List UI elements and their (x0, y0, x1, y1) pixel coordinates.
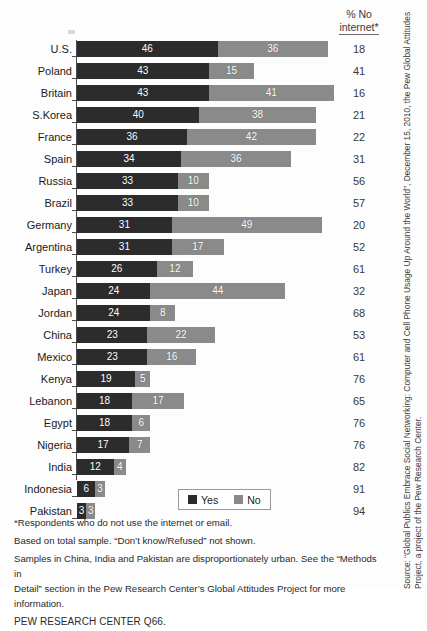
bar-segment-no: 3 (95, 481, 104, 497)
bar-value-label: 40 (133, 110, 144, 120)
bar-value-label: 7 (137, 440, 143, 450)
chart-row: Lebanon181765 (0, 390, 400, 412)
bar-segment-no: 22 (147, 327, 214, 343)
chart-row: Jordan24868 (0, 302, 400, 324)
bar-value-label: 22 (175, 330, 186, 340)
no-internet-value: 16 (330, 82, 388, 104)
bar-segment-no: 10 (178, 173, 209, 189)
no-internet-value: 21 (330, 104, 388, 126)
chart-row: U.S.463618 (0, 38, 400, 60)
bar-segment-yes: 33 (77, 173, 178, 189)
bar-segment-no: 42 (187, 129, 316, 145)
category-label: S.Korea (0, 104, 72, 126)
footnote-line-2: Based on total sample. “Don’t know/Refus… (14, 534, 382, 549)
chart-legend: Yes No (178, 489, 271, 510)
chart-row: Argentina311752 (0, 236, 400, 258)
category-label: Mexico (0, 346, 72, 368)
bar-segment-no: 4 (114, 459, 126, 475)
bar-segment-no: 16 (147, 349, 196, 365)
bar-value-label: 43 (137, 66, 148, 76)
bar-segment-no: 17 (132, 393, 184, 409)
bar-value-label: 15 (226, 66, 237, 76)
bar-value-label: 41 (266, 88, 277, 98)
legend-label-yes: Yes (201, 494, 218, 506)
bar-segment-yes: 24 (77, 283, 150, 299)
category-label: Lebanon (0, 390, 72, 412)
bar-value-label: 3 (97, 484, 103, 494)
no-internet-value: 41 (330, 60, 388, 82)
bar-value-label: 24 (108, 308, 119, 318)
bar-value-label: 19 (101, 374, 112, 384)
footnotes-block: *Respondents who do not use the internet… (14, 516, 382, 631)
category-label: U.S. (0, 38, 72, 60)
bar-segment-no: 7 (129, 437, 150, 453)
chart-row: France364222 (0, 126, 400, 148)
category-label: India (0, 456, 72, 478)
chart-row: Spain343631 (0, 148, 400, 170)
stacked-bar: 3310 (77, 195, 209, 211)
bar-segment-no: 41 (209, 85, 334, 101)
no-internet-value: 91 (330, 478, 388, 500)
bar-value-label: 34 (123, 154, 134, 164)
stacked-bar: 124 (77, 459, 126, 475)
no-internet-value: 82 (330, 456, 388, 478)
category-label: Egypt (0, 412, 72, 434)
no-internet-value: 57 (330, 192, 388, 214)
bar-value-label: 10 (188, 198, 199, 208)
bar-segment-yes: 17 (77, 437, 129, 453)
bar-segment-no: 5 (135, 371, 150, 387)
chart-row: Britain434116 (0, 82, 400, 104)
chart-row: Russia331056 (0, 170, 400, 192)
bar-segment-no: 36 (181, 151, 291, 167)
bar-value-label: 12 (90, 462, 101, 472)
chart-row: Egypt18676 (0, 412, 400, 434)
no-internet-value: 65 (330, 390, 388, 412)
category-label: Japan (0, 280, 72, 302)
no-internet-value: 20 (330, 214, 388, 236)
category-label: Britain (0, 82, 72, 104)
bar-value-label: 42 (246, 132, 257, 142)
stacked-bar: 4636 (77, 41, 328, 57)
stacked-bar: 2444 (77, 283, 285, 299)
bar-value-label: 17 (192, 242, 203, 252)
chart-row: Japan244432 (0, 280, 400, 302)
category-label: Spain (0, 148, 72, 170)
bar-value-label: 36 (127, 132, 138, 142)
bar-value-label: 23 (107, 330, 118, 340)
bar-segment-yes: 34 (77, 151, 181, 167)
category-label: Jordan (0, 302, 72, 324)
bar-value-label: 16 (166, 352, 177, 362)
bar-value-label: 18 (99, 418, 110, 428)
bar-value-label: 3 (79, 506, 85, 516)
bar-value-label: 18 (99, 396, 110, 406)
bar-value-label: 17 (153, 396, 164, 406)
legend-label-no: No (247, 494, 260, 506)
no-internet-value: 53 (330, 324, 388, 346)
legend-swatch-no (234, 495, 243, 504)
bar-segment-yes: 6 (77, 481, 95, 497)
column-header-line1: % No (330, 8, 388, 21)
bar-value-label: 46 (142, 44, 153, 54)
bar-value-label: 26 (111, 264, 122, 274)
chart-row: Nigeria17776 (0, 434, 400, 456)
bar-value-label: 10 (188, 176, 199, 186)
chart-row: S.Korea403821 (0, 104, 400, 126)
bar-segment-yes: 43 (77, 63, 209, 79)
category-label: Russia (0, 170, 72, 192)
category-label: Indonesia (0, 478, 72, 500)
bar-segment-yes: 46 (77, 41, 218, 57)
category-label: Kenya (0, 368, 72, 390)
bar-segment-no: 10 (178, 195, 209, 211)
bar-value-label: 43 (137, 88, 148, 98)
bar-segment-yes: 18 (77, 393, 132, 409)
footnote-line-3: Samples in China, India and Pakistan are… (14, 552, 382, 581)
no-internet-value: 68 (330, 302, 388, 324)
legend-item-yes: Yes (188, 494, 218, 506)
bar-value-label: 3 (88, 506, 94, 516)
category-label: Argentina (0, 236, 72, 258)
bar-value-label: 6 (83, 484, 89, 494)
category-label: France (0, 126, 72, 148)
category-label: Turkey (0, 258, 72, 280)
legend-item-no: No (234, 494, 260, 506)
